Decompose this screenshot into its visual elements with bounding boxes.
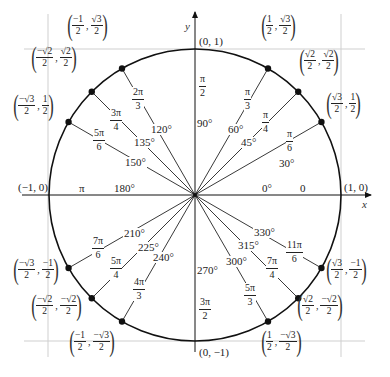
- numerator: −√2: [60, 294, 77, 305]
- denominator: 4: [270, 269, 275, 281]
- label-deg-315: 315°: [237, 240, 260, 251]
- left-paren: (: [261, 326, 267, 356]
- label-coord-150: (−√32,12): [14, 90, 53, 120]
- label-coord-60: (12,√32): [262, 10, 295, 40]
- numerator: −√2: [36, 46, 53, 57]
- label-coord-45: (√22,√22): [300, 45, 338, 75]
- denominator: 2: [335, 270, 340, 280]
- right-paren: ): [53, 254, 59, 284]
- radian-fraction: 5π4: [110, 256, 122, 280]
- y-coordinate: √32: [91, 14, 103, 36]
- label-rad-300: 5π3: [244, 283, 256, 307]
- label-coord-120: (−12,√32): [68, 10, 107, 40]
- radian-fraction: π6: [286, 129, 293, 153]
- denominator: 6: [96, 249, 101, 261]
- left-paren: (: [261, 10, 267, 40]
- numerator: −1: [42, 258, 54, 269]
- x-axis-label: x: [361, 198, 367, 210]
- denominator: 2: [327, 306, 332, 316]
- numerator: π: [262, 110, 269, 123]
- label-rad-315: 7π4: [266, 256, 278, 280]
- numerator: √3: [91, 14, 103, 25]
- label-deg-330: 330°: [253, 227, 276, 238]
- numerator: −1: [349, 258, 361, 269]
- numerator: π: [286, 129, 293, 142]
- label-coord-135: (−√22,√22): [32, 42, 76, 72]
- point-dot-210: [65, 265, 71, 271]
- radian-fraction: 3π4: [110, 108, 122, 132]
- x-coordinate: 12: [266, 14, 273, 36]
- right-paren: ): [76, 290, 82, 320]
- comma: ,: [345, 264, 348, 275]
- numerator: 7π: [92, 236, 104, 249]
- numerator: −√3: [18, 94, 35, 105]
- x-coordinate: −12: [74, 330, 86, 352]
- label-deg-150: 150°: [124, 157, 147, 168]
- denominator: 2: [76, 26, 81, 36]
- numerator: 7π: [266, 256, 278, 269]
- label-coord-225: (−√22,−√22): [32, 290, 81, 320]
- label-rad-30: π6: [286, 129, 293, 153]
- right-paren: ): [296, 326, 302, 356]
- left-paren: (: [31, 290, 37, 320]
- left-paren: (: [13, 90, 19, 120]
- y-coordinate: −12: [349, 258, 361, 280]
- denominator: 4: [263, 123, 268, 135]
- label-deg-270: 270°: [197, 265, 218, 276]
- label-point-neg1-0: (−1, 0): [18, 182, 48, 193]
- label-deg-45: 45°: [240, 137, 257, 148]
- origin-dot: [193, 193, 197, 197]
- numerator: −√3: [93, 330, 110, 341]
- label-deg-240: 240°: [152, 252, 175, 263]
- y-coordinate: −√22: [320, 294, 337, 316]
- radian-fraction: 7π4: [266, 256, 278, 280]
- right-paren: ): [361, 254, 367, 284]
- radian-fraction: 4π3: [133, 277, 145, 301]
- label-rad-90: π2: [199, 74, 206, 98]
- label-rad-225: 5π4: [110, 256, 122, 280]
- point-dot-240: [119, 318, 125, 324]
- label-deg-135: 135°: [133, 137, 156, 148]
- label-deg-120: 120°: [150, 124, 173, 135]
- numerator: −√3: [279, 330, 296, 341]
- denominator: 2: [306, 306, 311, 316]
- right-paren: ): [355, 88, 361, 118]
- left-paren: (: [67, 10, 73, 40]
- label-coord-315: (√22,−√22): [298, 290, 342, 320]
- numerator: π: [244, 87, 251, 100]
- x-coordinate: √32: [331, 92, 343, 114]
- comma: ,: [37, 264, 40, 275]
- comma: ,: [316, 300, 319, 311]
- label-coord-30: (√32,12): [327, 88, 360, 118]
- x-coordinate: −√22: [36, 294, 53, 316]
- label-point-1-0: (1, 0): [344, 182, 368, 193]
- right-paren: ): [71, 42, 77, 72]
- denominator: 2: [94, 26, 99, 36]
- right-paren: ): [109, 326, 115, 356]
- x-coordinate: −√22: [36, 46, 53, 68]
- denominator: 2: [42, 306, 47, 316]
- label-point-0-neg1: (0, −1): [199, 347, 229, 358]
- x-coordinate: 12: [266, 330, 273, 352]
- right-paren: ): [102, 10, 108, 40]
- numerator: √3: [331, 258, 343, 269]
- label-rad-240: 4π3: [133, 277, 145, 301]
- right-paren: ): [337, 290, 343, 320]
- label-deg-210: 210°: [123, 228, 146, 239]
- label-deg-30: 30°: [278, 158, 295, 169]
- radian-fraction: 11π6: [286, 240, 303, 264]
- denominator: 2: [326, 61, 331, 71]
- numerator: √2: [304, 49, 316, 60]
- denominator: 3: [136, 100, 141, 112]
- point-dot-120: [119, 65, 125, 71]
- denominator: 3: [245, 100, 250, 112]
- denominator: 3: [137, 290, 142, 302]
- y-coordinate: −√22: [60, 294, 77, 316]
- denominator: 2: [63, 58, 68, 68]
- x-coordinate: −√32: [18, 94, 35, 116]
- numerator: −√2: [320, 294, 337, 305]
- y-coordinate: −√32: [279, 330, 296, 352]
- denominator: 3: [248, 296, 253, 308]
- comma: ,: [345, 98, 348, 109]
- point-dot-330: [318, 265, 324, 271]
